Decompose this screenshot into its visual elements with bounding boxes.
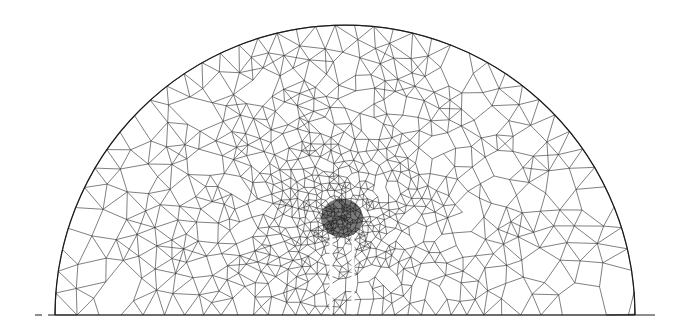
- mesh-diagram: [0, 0, 687, 334]
- slot-cutouts: [330, 235, 355, 315]
- mesh-elements: [55, 25, 635, 315]
- refined-core-region: [321, 198, 363, 237]
- slot-1: [330, 235, 333, 315]
- mesh-canvas: [0, 0, 687, 334]
- dense-refinement-core: [321, 198, 363, 237]
- domain-boundary: [35, 25, 655, 315]
- mesh-edges: [55, 25, 635, 315]
- slot-2: [352, 235, 355, 315]
